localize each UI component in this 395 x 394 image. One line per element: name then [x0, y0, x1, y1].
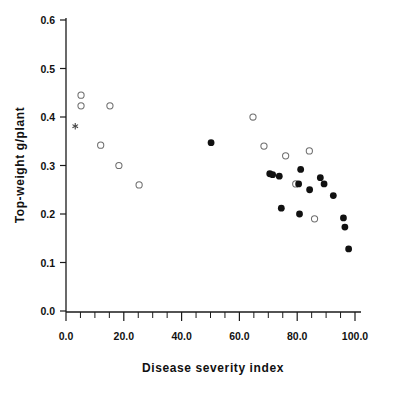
x-tick-label: 100.0 — [342, 330, 368, 342]
data-point-open — [78, 92, 84, 98]
data-point-filled — [278, 205, 285, 212]
data-point-open — [78, 103, 84, 109]
data-point-open — [98, 142, 104, 148]
data-point-open — [107, 103, 113, 109]
data-point-filled — [208, 139, 215, 146]
y-tick-label: 0.4 — [40, 111, 55, 123]
data-point-open — [136, 182, 142, 188]
data-point-filled — [297, 166, 304, 173]
data-point-open — [250, 114, 256, 120]
data-point-open — [116, 162, 122, 168]
data-point-filled — [269, 171, 276, 178]
data-point-filled — [276, 173, 283, 180]
y-axis-ticks — [60, 20, 66, 311]
x-tick-label: 0.0 — [59, 330, 74, 342]
data-point-open — [283, 153, 289, 159]
y-tick-label: 0.2 — [40, 208, 55, 220]
x-axis-title: Disease severity index — [142, 361, 284, 375]
data-point-filled — [340, 214, 347, 221]
x-axis-tick-labels: 0.020.040.060.080.0100.0 — [59, 330, 369, 342]
data-point-open — [306, 148, 312, 154]
scatter-plot-figure: 0.00.10.20.30.40.50.6 0.020.040.060.080.… — [0, 0, 395, 394]
data-point-open — [261, 143, 267, 149]
y-tick-label: 0.0 — [40, 305, 55, 317]
data-point-filled — [330, 192, 337, 199]
data-point-filled — [341, 224, 348, 231]
data-point-open — [311, 216, 317, 222]
data-point-star — [72, 123, 78, 129]
y-axis-title: Top-weight g/plant — [13, 107, 27, 224]
y-tick-label: 0.6 — [40, 14, 55, 26]
data-point-filled — [317, 174, 324, 181]
y-tick-label: 0.3 — [40, 160, 55, 172]
data-point-filled — [345, 246, 352, 253]
data-point-filled — [321, 181, 328, 188]
x-tick-label: 80.0 — [287, 330, 308, 342]
y-axis-tick-labels: 0.00.10.20.30.40.50.6 — [40, 14, 55, 317]
data-points-layer — [72, 92, 352, 252]
x-tick-label: 60.0 — [229, 330, 250, 342]
y-tick-label: 0.5 — [40, 63, 55, 75]
data-point-filled — [306, 186, 313, 193]
x-tick-label: 20.0 — [114, 330, 135, 342]
x-tick-label: 40.0 — [171, 330, 192, 342]
x-axis-minor-ticks — [80, 312, 340, 318]
data-point-filled — [295, 181, 302, 188]
plot-canvas: 0.00.10.20.30.40.50.6 0.020.040.060.080.… — [0, 0, 395, 394]
data-point-filled — [296, 211, 303, 218]
y-tick-label: 0.1 — [40, 257, 55, 269]
